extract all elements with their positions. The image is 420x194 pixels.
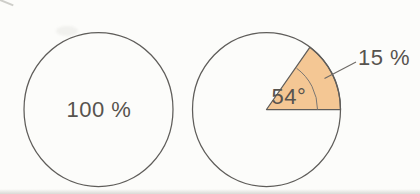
scan-shadow-bottom: [0, 189, 420, 194]
scan-smudge: [56, 26, 78, 36]
sector-angle-label: 54°: [272, 84, 307, 109]
pie-figure: 100 % 54° 15 %: [0, 0, 420, 194]
left-pie-value-label: 100 %: [67, 97, 132, 122]
sector-percent-label: 15 %: [358, 45, 410, 70]
